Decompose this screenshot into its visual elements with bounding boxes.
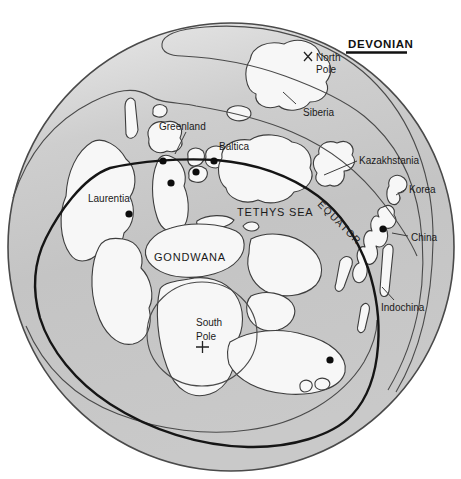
landmass-tethys-coast-2 bbox=[243, 222, 259, 231]
landmass-siberia bbox=[246, 40, 331, 110]
north-pole-label-line2: Pole bbox=[316, 64, 336, 75]
greenland-label: Greenland bbox=[159, 121, 206, 132]
south-pole-label-line2: Pole bbox=[196, 331, 216, 342]
gondwana-label: GONDWANA bbox=[154, 251, 226, 263]
landmass-greenland-east bbox=[188, 148, 205, 166]
tethys-sea-label: TETHYS SEA bbox=[237, 206, 313, 218]
siberia-label: Siberia bbox=[303, 107, 335, 118]
korea-label: Korea bbox=[409, 184, 436, 195]
landmass-arctic-island-2 bbox=[227, 106, 251, 121]
figure-title: DEVONIAN bbox=[346, 38, 414, 53]
laurentia-label: Laurentia bbox=[88, 193, 130, 204]
south-pole-label-line1: South bbox=[196, 317, 222, 328]
china-label: China bbox=[411, 232, 438, 243]
landmass-south-island-2 bbox=[315, 378, 330, 390]
landmass-south-island-1 bbox=[300, 380, 312, 392]
paleomap-canvas: North Pole Siberia Greenland Baltica Kaz… bbox=[0, 0, 461, 479]
locality-dot bbox=[326, 356, 333, 363]
locality-dot bbox=[159, 157, 166, 164]
devonian-paleomap-figure: North Pole Siberia Greenland Baltica Kaz… bbox=[0, 0, 461, 479]
locality-dot bbox=[210, 157, 217, 164]
indochina-label: Indochina bbox=[381, 302, 425, 313]
north-pole-label-line1: North bbox=[316, 52, 340, 63]
landmass-gondwana-east-2 bbox=[247, 292, 295, 330]
figure-title-text: DEVONIAN bbox=[348, 38, 414, 50]
landmass-greenland-main bbox=[153, 155, 189, 232]
kazakhstania-label: Kazakhstania bbox=[359, 155, 419, 166]
landmass-arctic-island-1 bbox=[153, 105, 167, 118]
locality-dot bbox=[167, 179, 174, 186]
locality-dot bbox=[125, 210, 132, 217]
locality-dot bbox=[379, 225, 386, 232]
baltica-label: Baltica bbox=[219, 141, 249, 152]
locality-dot bbox=[192, 168, 199, 175]
